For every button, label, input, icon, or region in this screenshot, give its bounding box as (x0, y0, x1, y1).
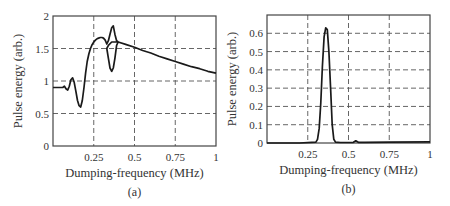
y-tick-label: 0.4 (249, 64, 263, 76)
chart-a: 00.511.520.250.50.751Dumping-frequency (… (11, 10, 219, 199)
panel-label: (a) (128, 185, 141, 199)
y-tick-label: 0.5 (35, 108, 49, 120)
y-tick-label: 0.5 (249, 46, 263, 58)
panel-label: (b) (342, 182, 356, 196)
x-tick-label: 0.25 (298, 148, 318, 160)
x-tick-label: 1 (213, 151, 219, 163)
figure-canvas: 00.511.520.250.50.751Dumping-frequency (… (0, 0, 450, 206)
x-tick-label: 0.75 (380, 148, 400, 160)
y-tick-label: 0 (258, 137, 264, 149)
x-tick-label: 0.25 (84, 151, 104, 163)
y-tick-label: 0.6 (249, 27, 263, 39)
x-axis-label: Dumping-frequency (MHz) (65, 166, 204, 180)
y-tick-label: 2 (44, 10, 50, 22)
y-tick-label: 0 (44, 140, 50, 152)
x-tick-label: 0.75 (166, 151, 186, 163)
x-tick-label: 1 (427, 148, 433, 160)
y-tick-label: 0.1 (249, 119, 263, 131)
chart-b: 00.10.20.30.40.50.60.250.50.751Dumping-f… (225, 15, 433, 196)
x-tick-label: 0.5 (342, 148, 356, 160)
y-tick-label: 0.3 (249, 82, 263, 94)
y-tick-label: 1 (44, 75, 50, 87)
y-tick-label: 1.5 (35, 43, 49, 55)
data-series-line (267, 28, 430, 143)
x-axis-label: Dumping-frequency (MHz) (279, 163, 418, 177)
y-tick-label: 0.2 (249, 100, 263, 112)
y-axis-label: Pulse energy (arb.) (225, 32, 239, 127)
y-axis-label: Pulse energy (arb.) (11, 34, 25, 129)
x-tick-label: 0.5 (128, 151, 142, 163)
